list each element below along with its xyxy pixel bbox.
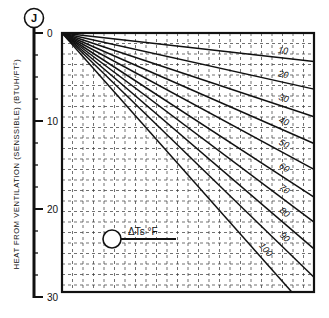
delta-t-label-90: 90 bbox=[278, 230, 292, 244]
y-tick-label: 10 bbox=[47, 116, 59, 127]
chart-badge: J bbox=[25, 9, 44, 28]
legend: ΔTs °F bbox=[103, 226, 176, 248]
delta-t-label-80: 80 bbox=[278, 205, 292, 219]
grid bbox=[62, 33, 314, 292]
delta-t-label-60: 60 bbox=[277, 161, 291, 175]
y-tick-label: 20 bbox=[47, 204, 59, 215]
nomograph-chart: 102030405060708090100 0102030 J HEAT FRO… bbox=[0, 0, 329, 318]
legend-label: ΔTs °F bbox=[128, 226, 158, 237]
y-tick-label: 30 bbox=[47, 292, 59, 303]
delta-t-label-30: 30 bbox=[277, 92, 290, 105]
delta-t-label-70: 70 bbox=[278, 182, 292, 196]
legend-circle-icon bbox=[103, 230, 121, 248]
y-axis: 0102030 bbox=[34, 27, 59, 303]
y-tick-label: 0 bbox=[47, 28, 53, 39]
delta-t-label-20: 20 bbox=[276, 68, 289, 80]
y-axis-label: HEAT FROM VENTILATION (SENSSIBLE) (BTUH/… bbox=[12, 59, 21, 270]
badge-letter: J bbox=[31, 12, 37, 24]
delta-t-label-10: 10 bbox=[278, 45, 289, 56]
